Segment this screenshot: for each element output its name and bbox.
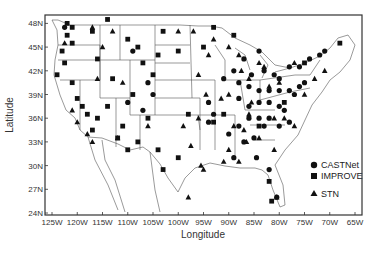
improve-site-marker [62, 61, 67, 66]
improve-site-marker [231, 33, 236, 38]
castnet-site-marker [267, 116, 272, 121]
improve-site-marker [90, 128, 95, 133]
x-tick-label: 90W [221, 218, 238, 227]
castnet-site-marker [150, 92, 155, 97]
castnet-site-marker [231, 155, 236, 160]
castnet-site-marker [302, 80, 307, 85]
improve-site-marker [105, 17, 110, 22]
improve-site-marker [60, 49, 65, 54]
castnet-site-marker [254, 155, 259, 160]
x-tick-label: 65W [347, 218, 364, 227]
improve-site-marker [151, 72, 156, 77]
castnet-site-marker [226, 131, 231, 136]
y-tick-label: 30N [28, 162, 43, 171]
x-tick-label: 105W [143, 218, 164, 227]
castnet-site-marker [206, 100, 211, 105]
improve-site-marker [201, 45, 206, 50]
castnet-site-marker [251, 135, 256, 140]
y-tick-label: 45N [28, 43, 43, 52]
y-tick-label: 42N [28, 67, 43, 76]
improve-site-marker [221, 112, 226, 117]
castnet-site-marker [256, 48, 261, 53]
improve-site-marker [146, 116, 151, 121]
x-tick-label: 75W [296, 218, 313, 227]
improve-site-marker [95, 57, 100, 62]
site-location-map: 125W120W115W110W105W100W95W90W85W80W75W7… [0, 0, 375, 255]
castnet-site-marker [206, 120, 211, 125]
castnet-site-marker [246, 84, 251, 89]
castnet-site-marker [145, 80, 150, 85]
y-tick-label: 33N [28, 138, 43, 147]
improve-site-marker [282, 100, 287, 105]
improve-site-marker [161, 29, 166, 34]
improve-site-marker [135, 140, 140, 145]
castnet-site-marker [282, 108, 287, 113]
y-tick-label: 24N [28, 209, 43, 218]
castnet-site-marker [267, 167, 272, 172]
improve-site-marker [70, 41, 75, 46]
castnet-site-marker [267, 100, 272, 105]
y-tick-label: 48N [28, 19, 43, 28]
castnet-site-marker [256, 88, 261, 93]
castnet-site-marker [317, 52, 322, 57]
castnet-site-marker [236, 80, 241, 85]
improve-site-marker [135, 45, 140, 50]
castnet-site-marker [256, 100, 261, 105]
improve-site-marker [85, 112, 90, 117]
legend-label: IMPROVE [321, 171, 363, 181]
x-tick-label: 80W [271, 218, 288, 227]
improve-site-marker [337, 41, 342, 46]
castnet-site-marker [231, 68, 236, 73]
improve-site-marker [176, 155, 181, 160]
castnet-site-marker [297, 64, 302, 69]
castnet-site-marker [236, 96, 241, 101]
castnet-site-marker [236, 124, 241, 129]
improve-site-marker [125, 147, 130, 152]
circle-marker-icon [311, 162, 317, 168]
x-tick-label: 115W [92, 218, 113, 227]
castnet-site-marker [262, 124, 267, 129]
improve-site-marker [65, 21, 70, 26]
improve-site-marker [161, 167, 166, 172]
improve-site-marker [211, 25, 216, 30]
improve-site-marker [105, 104, 110, 109]
improve-site-marker [186, 112, 191, 117]
y-tick-label: 36N [28, 114, 43, 123]
castnet-site-marker [307, 56, 312, 61]
castnet-site-marker [125, 100, 130, 105]
improve-site-marker [257, 124, 262, 129]
y-tick-label: 39N [28, 91, 43, 100]
improve-site-marker [70, 80, 75, 85]
castnet-site-marker [277, 88, 282, 93]
improve-site-marker [156, 53, 161, 58]
improve-site-marker [125, 37, 130, 42]
castnet-site-marker [322, 48, 327, 53]
castnet-site-marker [272, 72, 277, 77]
castnet-site-marker [130, 48, 135, 53]
improve-site-marker [80, 104, 85, 109]
improve-site-marker [269, 199, 274, 204]
improve-site-marker [156, 147, 161, 152]
castnet-site-marker [287, 120, 292, 125]
x-tick-label: 125W [42, 218, 63, 227]
improve-site-marker [65, 33, 70, 38]
x-tick-label: 120W [67, 218, 88, 227]
castnet-site-marker [249, 72, 254, 77]
improve-site-marker [70, 25, 75, 30]
castnet-site-marker [287, 64, 292, 69]
x-tick-label: 100W [168, 218, 189, 227]
castnet-site-marker [221, 76, 226, 81]
improve-site-marker [90, 29, 95, 34]
x-tick-label: 85W [246, 218, 263, 227]
castnet-site-marker [277, 124, 282, 129]
y-axis-title: Latitude [4, 97, 15, 133]
improve-site-marker [120, 124, 125, 129]
legend-label: STN [321, 189, 339, 199]
improve-site-marker [110, 76, 115, 81]
improve-site-marker [211, 120, 216, 125]
castnet-site-marker [277, 104, 282, 109]
legend-label: CASTNet [321, 160, 360, 170]
castnet-site-marker [211, 112, 216, 117]
improve-site-marker [75, 96, 80, 101]
castnet-site-marker [241, 56, 246, 61]
